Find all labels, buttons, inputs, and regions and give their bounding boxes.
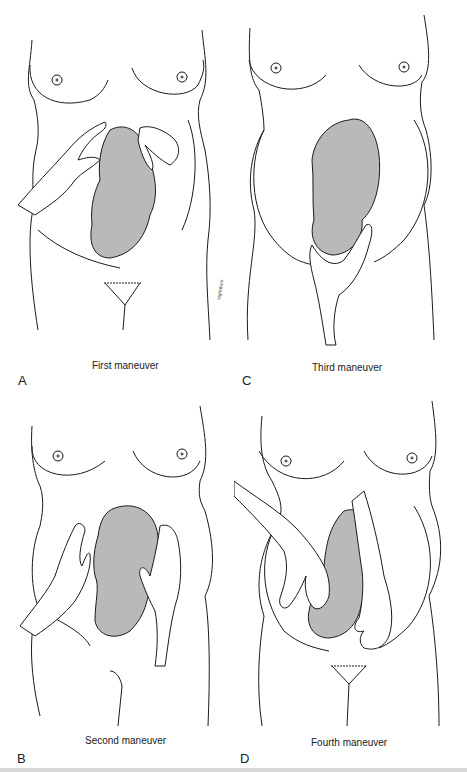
first-maneuver-illustration: signature <box>0 0 233 386</box>
caption-third-maneuver: Third maneuver <box>312 362 382 373</box>
third-maneuver-illustration <box>234 0 467 386</box>
fetus-shape <box>94 506 159 636</box>
svg-text:signature: signature <box>215 279 225 301</box>
bottom-edge-strip <box>0 768 467 772</box>
caption-fourth-maneuver: Fourth maneuver <box>311 737 387 748</box>
panel-a-first-maneuver: signature First maneuver A <box>0 0 233 386</box>
caption-first-maneuver: First maneuver <box>92 360 159 371</box>
panel-letter-b: B <box>17 751 26 766</box>
panel-d-fourth-maneuver: Fourth maneuver D <box>234 386 467 772</box>
fourth-maneuver-illustration <box>234 386 467 772</box>
panel-letter-d: D <box>240 751 249 766</box>
caption-second-maneuver: Second maneuver <box>85 735 166 746</box>
second-maneuver-illustration <box>0 386 233 772</box>
panel-c-third-maneuver: Third maneuver C <box>234 0 467 386</box>
panel-b-second-maneuver: Second maneuver B <box>0 386 233 772</box>
